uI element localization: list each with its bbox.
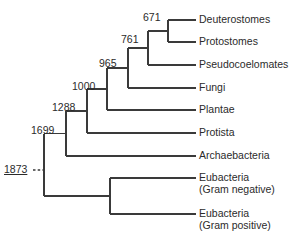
tip-label-eubacteria-gram-negative: Eubacteria(Gram negative) <box>199 172 275 195</box>
tip-label-line1: Plantae <box>199 104 235 116</box>
tip-label-line1: Eubacteria <box>199 208 271 220</box>
node-support-label-node-1000: 1000 <box>72 80 95 92</box>
tip-label-line2: (Gram negative) <box>199 184 275 196</box>
tip-label-line1: Eubacteria <box>199 172 275 184</box>
tip-label-line1: Protostomes <box>199 36 258 48</box>
tip-label-protista: Protista <box>199 127 235 139</box>
tip-label-plantae: Plantae <box>199 104 235 116</box>
node-support-label-node-761: 761 <box>121 33 139 45</box>
tip-label-pseudocoelomates: Pseudocoelomates <box>199 59 288 71</box>
tip-label-deuterostomes: Deuterostomes <box>199 14 270 26</box>
tip-label-line1: Protista <box>199 127 235 139</box>
branch-line-group <box>44 20 196 214</box>
tip-label-line1: Pseudocoelomates <box>199 59 288 71</box>
node-support-label-node-965: 965 <box>99 57 117 69</box>
tip-label-protostomes: Protostomes <box>199 36 258 48</box>
node-support-label-node-1873: 1873 <box>4 163 27 175</box>
node-support-label-node-1699: 1699 <box>31 124 54 136</box>
tip-label-archaebacteria: Archaebacteria <box>199 150 270 162</box>
tip-label-line1: Fungi <box>199 82 225 94</box>
tip-label-line1: Archaebacteria <box>199 150 270 162</box>
node-support-label-node-671: 671 <box>143 11 161 23</box>
tip-label-fungi: Fungi <box>199 82 225 94</box>
phylogenetic-tree-figure: DeuterostomesProtostomesPseudocoelomates… <box>0 0 294 241</box>
tip-label-line2: (Gram positive) <box>199 220 271 232</box>
tip-label-line1: Deuterostomes <box>199 14 270 26</box>
tip-label-eubacteria-gram-positive: Eubacteria(Gram positive) <box>199 208 271 231</box>
node-support-label-node-1288: 1288 <box>52 101 75 113</box>
